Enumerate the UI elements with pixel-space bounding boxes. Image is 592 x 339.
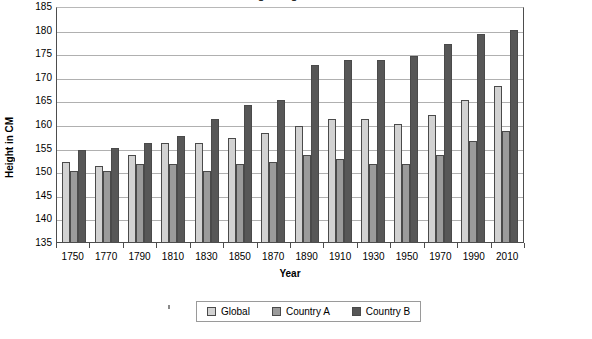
x-tick-label: 1950 <box>390 250 423 264</box>
bar-group <box>490 8 523 242</box>
bar-country-b-1950[interactable] <box>410 56 418 242</box>
bar-global-1890[interactable] <box>295 126 303 242</box>
y-tick-label: 185 <box>26 2 52 12</box>
y-axis-title: Height in CM <box>2 92 16 202</box>
x-tick <box>524 243 525 248</box>
legend-swatch-icon <box>352 307 361 316</box>
x-tick-label: 1750 <box>56 250 89 264</box>
x-tick-label: 2010 <box>490 250 523 264</box>
bar-country-b-1970[interactable] <box>444 44 452 242</box>
x-axis-tick-labels: 1750177017901810183018501870189019101930… <box>56 250 524 264</box>
x-axis-ticks <box>56 243 524 249</box>
bar-country-b-1850[interactable] <box>244 105 252 242</box>
bar-group <box>223 8 256 242</box>
x-tick <box>257 243 258 248</box>
legend-label: Country B <box>366 307 410 317</box>
chart-legend: GlobalCountry ACountry B <box>196 301 421 322</box>
bar-country-b-1830[interactable] <box>211 119 219 242</box>
bar-country-a-1850[interactable] <box>236 164 244 242</box>
y-tick-label: 150 <box>26 167 52 177</box>
legend-item-country-a[interactable]: Country A <box>272 307 330 317</box>
bar-country-a-2010[interactable] <box>502 131 510 242</box>
bar-group <box>257 8 290 242</box>
bar-group <box>124 8 157 242</box>
bar-group <box>290 8 323 242</box>
x-tick-label: 1890 <box>290 250 323 264</box>
y-tick-label: 165 <box>26 96 52 106</box>
legend-item-country-b[interactable]: Country B <box>352 307 410 317</box>
bar-global-1950[interactable] <box>394 124 402 242</box>
legend-label: Country A <box>286 307 330 317</box>
x-tick <box>89 243 90 248</box>
bar-groups <box>57 8 523 242</box>
x-tick-label: 1790 <box>123 250 156 264</box>
bar-country-b-1890[interactable] <box>311 65 319 242</box>
plot-area <box>56 7 524 243</box>
bar-country-a-1790[interactable] <box>136 164 144 242</box>
x-tick <box>190 243 191 248</box>
bar-country-a-1890[interactable] <box>303 155 311 242</box>
bar-global-1870[interactable] <box>261 133 269 242</box>
x-tick <box>390 243 391 248</box>
bar-group <box>423 8 456 242</box>
bar-country-a-1970[interactable] <box>436 155 444 242</box>
bar-group <box>323 8 356 242</box>
bar-global-1930[interactable] <box>361 119 369 242</box>
bar-global-1750[interactable] <box>62 162 70 242</box>
bar-country-a-1930[interactable] <box>369 164 377 242</box>
bar-country-b-1870[interactable] <box>277 100 285 242</box>
chart-container: Average Height Over Time Height in CM 18… <box>0 0 592 339</box>
y-tick-label: 140 <box>26 214 52 224</box>
x-tick <box>357 243 358 248</box>
x-tick <box>123 243 124 248</box>
x-tick-label: 1990 <box>457 250 490 264</box>
bar-country-a-1910[interactable] <box>336 159 344 242</box>
bar-group <box>190 8 223 242</box>
bar-country-a-1830[interactable] <box>203 171 211 242</box>
x-tick-label: 1770 <box>89 250 122 264</box>
bar-country-b-1930[interactable] <box>377 60 385 242</box>
x-tick-label: 1810 <box>156 250 189 264</box>
bar-global-1910[interactable] <box>328 119 336 242</box>
bar-global-1830[interactable] <box>195 143 203 242</box>
bar-group <box>90 8 123 242</box>
x-tick <box>156 243 157 248</box>
y-tick-label: 180 <box>26 26 52 36</box>
x-tick-label: 1970 <box>424 250 457 264</box>
bar-global-2010[interactable] <box>494 86 502 242</box>
bar-country-b-1750[interactable] <box>78 150 86 242</box>
bar-country-b-2010[interactable] <box>510 30 518 242</box>
legend-label: Global <box>221 307 250 317</box>
legend-item-global[interactable]: Global <box>207 307 250 317</box>
bar-country-b-1790[interactable] <box>144 143 152 242</box>
bar-global-1790[interactable] <box>128 155 136 242</box>
bar-country-a-1990[interactable] <box>469 141 477 242</box>
x-tick <box>457 243 458 248</box>
bar-global-1990[interactable] <box>461 100 469 242</box>
x-tick <box>56 243 57 248</box>
bar-country-b-1770[interactable] <box>111 148 119 242</box>
bar-country-a-1770[interactable] <box>103 171 111 242</box>
bar-country-b-1810[interactable] <box>177 136 185 242</box>
x-tick-label: 1870 <box>257 250 290 264</box>
x-tick-label: 1850 <box>223 250 256 264</box>
bar-country-a-1950[interactable] <box>402 164 410 242</box>
bar-global-1850[interactable] <box>228 138 236 242</box>
x-tick-label: 1930 <box>357 250 390 264</box>
y-tick-label: 145 <box>26 191 52 201</box>
bar-country-a-1810[interactable] <box>169 164 177 242</box>
bar-group <box>57 8 90 242</box>
y-tick-label: 135 <box>26 238 52 248</box>
bar-group <box>157 8 190 242</box>
bar-country-a-1750[interactable] <box>70 171 78 242</box>
bar-country-b-1990[interactable] <box>477 34 485 242</box>
x-tick <box>424 243 425 248</box>
bar-global-1810[interactable] <box>161 143 169 242</box>
bar-global-1970[interactable] <box>428 115 436 242</box>
bar-global-1770[interactable] <box>95 166 103 242</box>
legend-swatch-icon <box>207 307 216 316</box>
x-axis-title: Year <box>56 268 524 279</box>
bar-country-b-1910[interactable] <box>344 60 352 242</box>
bar-country-a-1870[interactable] <box>269 162 277 242</box>
chart-title-clipped: Average Height Over Time <box>0 0 592 7</box>
